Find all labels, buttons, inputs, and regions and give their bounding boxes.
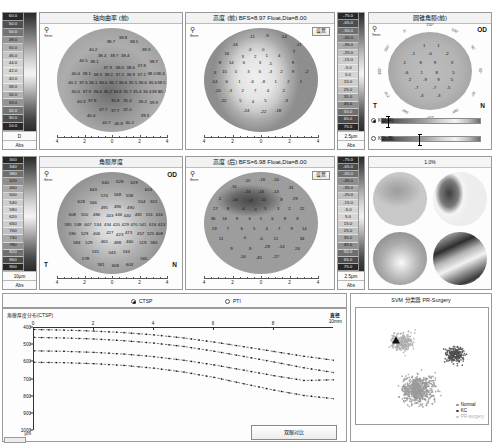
- map-value-6: 568: [114, 193, 121, 197]
- binocular-compare-button[interactable]: 双眼对比: [251, 425, 337, 440]
- thumb-map-4[interactable]: [431, 230, 489, 288]
- map-value-13: 2: [409, 78, 411, 82]
- map-value-37: 14: [302, 227, 307, 231]
- map-value-25: 538: [74, 223, 81, 227]
- pachy-x-ruler: 42024: [57, 278, 167, 286]
- map-value-44: 4: [252, 100, 254, 104]
- elev-front-scale-strip: [358, 13, 364, 131]
- scale-tick-11: 35.0: [338, 94, 358, 101]
- elev-front-scale-column: -75.0-65.0-55.0-45.0-35.0-25.0-15.0-5.05…: [337, 12, 365, 150]
- thumb-map-2[interactable]: [431, 170, 489, 228]
- elev-back-mode-label[interactable]: Abs: [338, 280, 364, 289]
- radio-dot-icon[interactable]: [131, 299, 136, 304]
- map-value-23: 16: [222, 217, 227, 221]
- kc-back-bar[interactable]: [381, 136, 481, 142]
- kc-indicator-back[interactable]: [381, 136, 481, 142]
- map-value-25: 2: [280, 70, 282, 74]
- kc-map-body[interactable]: ⚲ 9mm OD T N 150°120°90°60°30°180°210°24…: [369, 24, 491, 149]
- pachy-map-disc[interactable]: 6406286196436145745685586285665546154954…: [57, 172, 167, 274]
- scale-tick-14: 65.0: [338, 116, 358, 123]
- axial-unit-label: D: [3, 131, 36, 140]
- panel-elevation-back[interactable]: 高度 (后) BFS=6.98 Float,Dia=8.00 ⚲ 8mm 设置 …: [185, 156, 335, 290]
- elev-front-map-body[interactable]: ⚲ 8mm 设置 -11-9-14-16-17-30716321481463-5…: [186, 24, 334, 149]
- map-value-29: 420: [113, 223, 120, 227]
- panel-thumbnail-maps[interactable]: 1.0%: [368, 156, 492, 290]
- thumb-map-1[interactable]: [371, 170, 429, 228]
- ruler-tick-label-0: 4: [56, 280, 59, 285]
- map-value-56: 40.8: [114, 122, 122, 126]
- map-value-7: 558: [126, 194, 133, 198]
- svm-scatter-plot[interactable]: Normal KC PR-surgery: [355, 307, 489, 425]
- ruler-minor-tick: [71, 277, 72, 279]
- kc-front-radio[interactable]: KCI (F): [371, 118, 393, 123]
- footer-status-chip[interactable]: [4, 437, 26, 443]
- ctsp-diameter-label: 直径: [330, 311, 340, 318]
- axial-map-body[interactable]: ⚲ 9mm 38.738.838.540.239.338.438.738.440…: [40, 24, 182, 149]
- map-value-4: -17: [296, 42, 302, 46]
- radio-dot-icon[interactable]: [371, 136, 376, 141]
- map-value-28: 434: [104, 223, 111, 227]
- kc-ring-label-1: 120°: [451, 28, 459, 35]
- scale-tick-13: 55.0: [338, 250, 358, 257]
- magnifier-icon[interactable]: ⚲: [44, 26, 49, 34]
- map-value-38: 427: [106, 231, 113, 235]
- kc-back-marker[interactable]: [419, 134, 420, 146]
- ruler-minor-tick: [119, 136, 120, 138]
- map-value-15: 608: [69, 213, 76, 217]
- ctsp-plot-area[interactable]: [33, 327, 333, 430]
- pachy-mode-label[interactable]: Abs: [3, 280, 36, 289]
- elev-back-settings-button[interactable]: 设置: [312, 171, 330, 180]
- panel-ctsp-chart[interactable]: 角膜厚度分布(CTSP) 直径 10mm 4005006007008009001…: [2, 308, 347, 442]
- axial-mode-label[interactable]: Abs: [3, 140, 36, 149]
- map-value-31: 470: [130, 223, 137, 227]
- kc-back-radio[interactable]: KCI (B): [371, 136, 394, 141]
- elev-back-map-disc[interactable]: -15-16-20-16-31-23-16-132-16-7-11829278-…: [204, 172, 318, 274]
- pachy-temporal-label: T: [44, 261, 48, 268]
- panel-keratoconus[interactable]: 圆锥角膜(前) ⚲ 9mm OD T N 150°120°90°60°30°18…: [368, 12, 492, 150]
- map-value-17: -1: [253, 208, 257, 212]
- map-value-19: -5: [447, 86, 451, 90]
- elev-front-settings-button[interactable]: 设置: [312, 27, 330, 36]
- map-value-12: 495: [101, 206, 108, 210]
- map-value-43: 35.7: [158, 90, 166, 94]
- radio-dot-icon[interactable]: [225, 299, 230, 304]
- pti-radio[interactable]: PTI: [225, 298, 241, 304]
- panel-svm-classifier[interactable]: SVM 分类器: PR-Surgery Normal KC PR-surgery: [350, 293, 492, 442]
- elev-front-map-disc[interactable]: -11-9-14-16-17-30716321481463-59-315536-…: [204, 28, 318, 132]
- elev-front-mode-label[interactable]: Abs: [338, 140, 364, 149]
- panel-elevation-front[interactable]: 高度 (前) BFS=8.97 Float,Dia=8.00 ⚲ 8mm 设置 …: [185, 12, 335, 150]
- magnifier-icon[interactable]: ⚲: [190, 26, 195, 34]
- map-value-52: 543: [108, 250, 115, 254]
- panel-pachymetry[interactable]: 角膜厚度 ⚲ 8mm OD T N 6406286196436145745685…: [39, 156, 183, 290]
- map-value-49: -18: [275, 109, 281, 113]
- kc-front-bar[interactable]: [381, 118, 481, 124]
- magnifier-icon[interactable]: ⚲: [44, 170, 49, 178]
- radio-dot-icon[interactable]: [371, 118, 376, 123]
- axial-map-disc[interactable]: 38.738.838.540.239.338.438.738.440.538.1…: [57, 28, 167, 132]
- map-value-47: 35.4: [123, 99, 131, 103]
- map-value-17: 38.3: [94, 73, 102, 77]
- map-value-18: -7: [432, 86, 436, 90]
- ruler-minor-tick: [160, 136, 161, 138]
- map-value-32: 36.6: [149, 81, 157, 85]
- panel-axial-curvature[interactable]: 轴向曲率 (前) ⚲ 9mm 38.738.838.540.239.338.43…: [39, 12, 183, 150]
- magnifier-icon[interactable]: ⚲: [190, 170, 195, 178]
- map-value-10: 554: [138, 199, 145, 203]
- map-value-30: 1: [238, 80, 240, 84]
- map-value-6: -16: [258, 190, 264, 194]
- map-value-45: 529: [85, 241, 92, 245]
- scale-tick-15: 900: [3, 264, 23, 271]
- thumb-map-3[interactable]: [371, 230, 429, 288]
- ruler-tick-label-0: 4: [56, 139, 59, 144]
- pachy-map-body[interactable]: ⚲ 8mm OD T N 640628619643614574568558628…: [40, 168, 182, 289]
- map-value-20: 2: [288, 207, 290, 211]
- scale-tick-9: 38.0: [3, 84, 23, 92]
- kc-map-disc[interactable]: 11-1-6-22893-61852-995-7-7-5-3-3: [388, 32, 472, 110]
- ruler-minor-tick: [311, 277, 312, 279]
- map-value-28: 8: [284, 217, 286, 221]
- ruler-minor-tick: [254, 136, 255, 138]
- map-value-1: 628: [116, 180, 123, 184]
- ctsp-radio[interactable]: CTSP: [131, 298, 152, 304]
- kc-indicator-front[interactable]: [381, 118, 481, 124]
- elev-back-map-body[interactable]: ⚲ 8mm 设置 -15-16-20-16-31-23-16-132-16-7-…: [186, 168, 334, 289]
